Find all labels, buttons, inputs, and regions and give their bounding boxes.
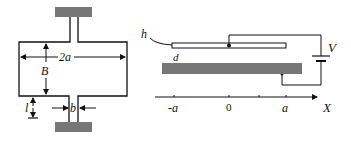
right-figure: h V d -a 0 a X [141,27,338,115]
left-figure: 2a B l b [19,7,127,132]
axis-label: X [322,100,332,115]
tick-label-a: a [282,101,288,115]
top-plate-label: h [141,27,147,41]
stem-width-label: b [70,101,76,115]
top-plate-leader [150,38,172,45]
top-gray-block [55,7,92,17]
bottom-plate [162,63,302,74]
bottom-gray-block [55,122,92,132]
tick-label-neg-a: -a [168,101,178,115]
gap-label: d [173,51,179,63]
height-label: B [41,64,49,78]
diagram-canvas: 2a B l b h V d [0,0,351,141]
stem-length-label: l [25,101,29,115]
width-label: 2a [59,50,71,64]
voltage-label: V [328,40,338,55]
tick-label-zero: 0 [226,101,232,113]
